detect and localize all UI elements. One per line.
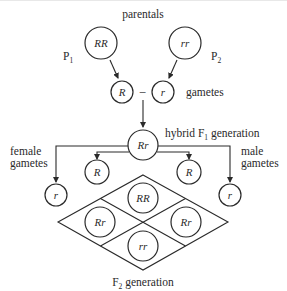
parent-p1-genotype: RR <box>93 37 108 49</box>
arrow-p2-to-gamete <box>169 60 177 78</box>
branch-female-inner <box>97 152 129 159</box>
cell-right-genotype: Rr <box>180 216 193 228</box>
parentals-label: parentals <box>122 8 164 21</box>
female-gamete-R-label: R <box>93 166 101 178</box>
female-gamete-r-label: r <box>54 189 59 201</box>
cell-left-genotype: Rr <box>94 216 107 228</box>
monohybrid-cross-diagram: parentals RR P1 rr P2 R – r gametes Rr h… <box>0 0 287 291</box>
male-gametes-label-line2: gametes <box>241 157 279 170</box>
gamete-separator: – <box>139 85 146 97</box>
f1-label: hybrid F1 generation <box>165 127 260 142</box>
f2-label: F2 generation <box>112 276 174 291</box>
gametes-label: gametes <box>186 86 224 99</box>
gamete-R-label: R <box>118 86 126 98</box>
parent-p2-genotype: rr <box>181 37 190 49</box>
male-gamete-R-label: R <box>185 166 193 178</box>
gamete-r-label: r <box>161 86 166 98</box>
male-gametes: male gametes R r <box>177 145 279 206</box>
cell-top-genotype: RR <box>135 192 150 204</box>
punnett-diamond: RR Rr Rr rr <box>58 175 228 270</box>
cell-bottom-genotype: rr <box>139 240 148 252</box>
arrow-p1-to-gamete <box>110 60 118 78</box>
parent-p2-label: P2 <box>211 50 221 65</box>
male-gamete-r-label: r <box>228 189 233 201</box>
branch-male-inner <box>157 152 189 159</box>
female-gametes: female gametes r R <box>10 145 109 206</box>
female-gametes-label-line2: gametes <box>10 157 48 170</box>
female-gametes-label-line1: female <box>10 145 41 157</box>
male-gametes-label-line1: male <box>241 145 263 157</box>
parent-gametes: R – r gametes <box>111 81 224 103</box>
f1-hybrid: Rr hybrid F1 generation <box>128 127 260 160</box>
parent-p2: rr P2 <box>169 27 221 65</box>
f1-genotype: Rr <box>137 139 150 151</box>
parent-p1: RR P1 <box>63 27 117 65</box>
parent-p1-label: P1 <box>63 50 73 65</box>
